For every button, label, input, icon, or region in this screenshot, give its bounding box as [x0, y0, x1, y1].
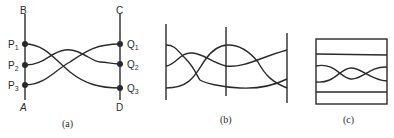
- label-p2: P2: [8, 60, 19, 72]
- caption-b: (b): [220, 114, 232, 126]
- label-q3: Q3: [127, 83, 139, 95]
- caption-c: (c): [343, 114, 354, 126]
- label-p1: P1: [8, 39, 19, 51]
- label-q2: Q2: [127, 59, 139, 71]
- point-p2: [22, 62, 28, 68]
- label-d: D: [116, 102, 123, 113]
- caption-a: (a): [62, 118, 73, 130]
- frame: [316, 39, 387, 104]
- label-a: A: [19, 102, 27, 113]
- point-q3: [117, 85, 123, 91]
- strand-top-straight: [316, 54, 387, 55]
- braid-diagram-figure: B C A D P1 P2 P3 Q1 Q2 Q3 (a) (b) (c): [0, 0, 394, 138]
- strand-p2-q2: [25, 50, 120, 65]
- point-p3: [22, 82, 28, 88]
- panel-c: (c): [316, 39, 387, 126]
- panel-a: B C A D P1 P2 P3 Q1 Q2 Q3 (a): [8, 5, 139, 130]
- label-q1: Q1: [127, 39, 139, 51]
- point-q2: [117, 61, 123, 67]
- point-p1: [22, 41, 28, 47]
- panel-b: (b): [166, 24, 287, 126]
- strand-cross-2: [316, 68, 387, 82]
- label-c: C: [116, 5, 123, 16]
- label-p3: P3: [8, 80, 19, 92]
- point-q1: [117, 41, 123, 47]
- label-b: B: [20, 5, 27, 16]
